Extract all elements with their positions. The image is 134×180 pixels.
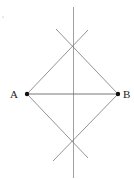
line-a-top	[27, 30, 88, 94]
label-b: B	[123, 89, 130, 100]
line-b-bottom	[53, 94, 118, 161]
point-a	[25, 92, 29, 96]
construction-figure	[0, 0, 134, 180]
point-b	[116, 92, 120, 96]
stray-mark	[2, 16, 3, 17]
diagram-canvas: A B	[0, 0, 134, 180]
line-b-top	[56, 29, 118, 94]
line-a-bottom	[27, 94, 88, 158]
label-a: A	[10, 89, 18, 100]
